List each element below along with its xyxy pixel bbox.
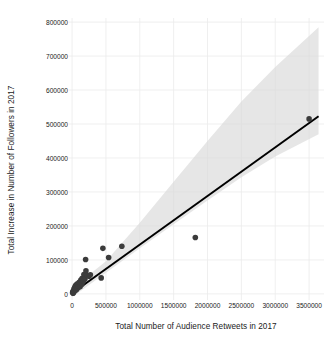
x-tick-label: 2500000 — [229, 302, 255, 309]
x-tick-label: 0 — [70, 302, 74, 309]
data-point — [306, 116, 312, 122]
data-point — [100, 246, 106, 252]
data-point — [119, 244, 125, 250]
plot-canvas — [68, 18, 324, 300]
data-point — [98, 275, 104, 281]
x-tick-label: 3000000 — [262, 302, 288, 309]
y-tick-label: 500000 — [20, 121, 68, 128]
data-point — [83, 257, 89, 263]
y-tick-label: 300000 — [20, 188, 68, 195]
x-tick-label: 1000000 — [127, 302, 153, 309]
plot-panel — [68, 18, 324, 300]
y-tick-label: 400000 — [20, 154, 68, 161]
data-point — [88, 272, 94, 278]
y-tick-label: 800000 — [20, 19, 68, 26]
y-tick-label: 0 — [20, 290, 68, 297]
regression-line — [72, 116, 319, 293]
data-point — [193, 235, 199, 241]
x-axis-label: Total Number of Audience Retweets in 201… — [68, 322, 324, 331]
y-tick-label: 200000 — [20, 222, 68, 229]
scatter-plot-figure: Total Increase in Number of Followers in… — [0, 0, 336, 340]
y-tick-label: 600000 — [20, 87, 68, 94]
data-point — [106, 255, 112, 261]
x-tick-label: 2000000 — [195, 302, 221, 309]
y-tick-label: 700000 — [20, 53, 68, 60]
x-tick-label: 1500000 — [161, 302, 187, 309]
y-tick-label: 100000 — [20, 256, 68, 263]
y-axis-label: Total Increase in Number of Followers in… — [0, 0, 22, 340]
x-tick-label: 500000 — [95, 302, 117, 309]
x-tick-label: 3500000 — [296, 302, 322, 309]
